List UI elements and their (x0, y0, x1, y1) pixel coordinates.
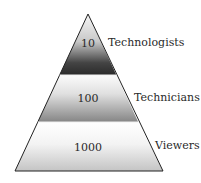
tier-value-viewers: 1000 (74, 141, 102, 154)
tier-label-viewers: Viewers (154, 139, 200, 152)
tier-value-technologists: 10 (81, 37, 95, 50)
pyramid-diagram: 10 100 1000 Technologists Technicians Vi… (0, 0, 201, 183)
tier-label-technicians: Technicians (134, 91, 200, 104)
tier-label-technologists: Technologists (108, 36, 185, 49)
tier-value-technicians: 100 (78, 92, 99, 105)
